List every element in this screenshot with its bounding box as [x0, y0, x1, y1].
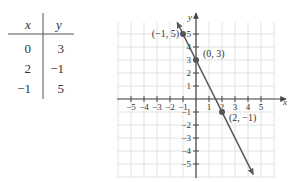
- y-tick-label: 3: [187, 55, 192, 65]
- y-axis-label: y: [187, 12, 192, 22]
- x-tick-label: −3: [152, 102, 162, 112]
- x-tick-label: −2: [165, 102, 175, 112]
- y-tick-label: 1: [187, 81, 192, 91]
- x-tick-label: 1: [207, 102, 212, 112]
- y-tick-label: −1: [181, 107, 191, 117]
- x-tick-label: −4: [139, 102, 149, 112]
- data-point-label: (2, −1): [229, 112, 256, 124]
- y-tick-label: −4: [181, 146, 191, 156]
- y-tick-label: −3: [181, 133, 191, 143]
- y-tick-label: −5: [181, 159, 191, 169]
- x-tick-label: −5: [126, 102, 136, 112]
- x-axis-label: x: [282, 97, 287, 107]
- data-point-label: (−1, 5): [152, 28, 179, 40]
- y-tick-label: −2: [181, 120, 191, 130]
- data-point-label: (0, 3): [203, 48, 225, 60]
- x-tick-label: 5: [259, 102, 264, 112]
- y-tick-label: 5: [187, 29, 192, 39]
- data-point: [219, 109, 225, 115]
- coordinate-plane: xy −5−4−3−2−112345−5−4−3−2−112345 (−1, 5…: [0, 0, 300, 182]
- x-tick-label: 3: [233, 102, 238, 112]
- y-tick-label: 2: [187, 68, 192, 78]
- x-tick-label: 4: [246, 102, 251, 112]
- data-point: [180, 31, 186, 37]
- data-point: [193, 57, 199, 63]
